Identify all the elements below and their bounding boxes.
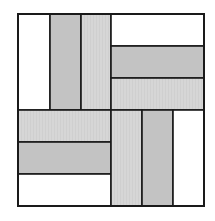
quilt-strip-bottom-left-dark-gray <box>18 142 111 174</box>
quilt-strip-bottom-left-light-gray <box>18 110 111 142</box>
quilt-strip-top-left-white <box>18 14 50 110</box>
quilt-block-diagram <box>0 0 215 221</box>
quilt-strip-bottom-right-light-gray <box>111 110 142 206</box>
quilt-strips <box>18 14 204 206</box>
quilt-strip-top-right-dark-gray <box>111 46 204 78</box>
quilt-strip-top-right-light-gray <box>111 78 204 110</box>
quilt-strip-top-left-dark-gray <box>50 14 81 110</box>
quilt-strip-bottom-right-white <box>173 110 204 206</box>
quilt-strip-top-right-white <box>111 14 204 46</box>
quilt-strip-bottom-right-dark-gray <box>142 110 173 206</box>
quilt-strip-top-left-light-gray <box>81 14 111 110</box>
quilt-strip-bottom-left-white <box>18 174 111 206</box>
